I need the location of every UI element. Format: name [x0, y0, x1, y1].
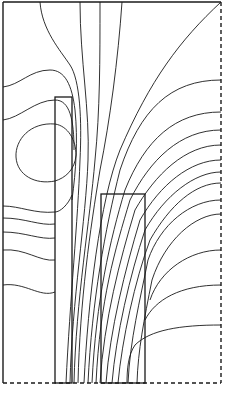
tall-slab-region [55, 97, 72, 383]
contour-svg [0, 0, 226, 394]
outer-boundary [3, 2, 221, 383]
contour-lines [3, 2, 221, 383]
contour-diagram [0, 0, 226, 394]
closed-contour [16, 124, 55, 182]
